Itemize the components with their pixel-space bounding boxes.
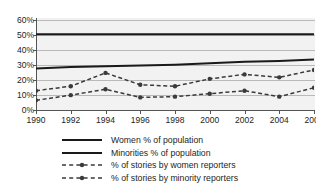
legend-key-solid [60, 134, 104, 146]
y-axis-tick [33, 95, 36, 96]
x-axis-tick [175, 110, 176, 114]
data-point-marker [242, 89, 246, 93]
data-point-marker [138, 95, 142, 99]
x-axis-tick [279, 110, 280, 114]
x-axis-tick [71, 110, 72, 114]
x-axis-tick-label: 2004 [270, 116, 289, 125]
data-point-marker [173, 94, 177, 98]
x-axis-tick-label: 2006 [305, 116, 316, 125]
x-axis-tick-label: 2002 [235, 116, 254, 125]
x-axis-tick [314, 110, 315, 114]
x-axis-tick [245, 110, 246, 114]
legend-item: % of stories by women reporters [60, 159, 290, 172]
data-point-marker [69, 84, 73, 88]
data-point-marker [36, 98, 38, 102]
data-point-marker [36, 89, 38, 93]
legend-label: % of stories by minority reporters [104, 172, 238, 184]
legend-label: Minorities % of population [104, 147, 210, 159]
legend-label: % of stories by women reporters [104, 159, 236, 171]
data-point-marker [69, 93, 73, 97]
x-axis-tick [106, 110, 107, 114]
y-axis-tick [33, 65, 36, 66]
x-axis-tick-label: 2000 [200, 116, 219, 125]
x-axis-tick-label: 1990 [27, 116, 46, 125]
data-point-marker [103, 71, 107, 75]
y-axis-tick [33, 110, 36, 111]
data-point-marker [277, 75, 281, 79]
chart-legend: Women % of populationMinorities % of pop… [60, 134, 290, 184]
legend-label: Women % of population [104, 134, 203, 146]
series-layer [36, 18, 314, 110]
data-point-marker [312, 86, 314, 90]
y-axis-tick [33, 50, 36, 51]
y-axis: 0%10%20%30%40%50%60% [0, 18, 34, 110]
y-axis-tick-label: 20% [17, 76, 34, 85]
legend-key-dashed [60, 159, 104, 171]
legend-key-solid [60, 147, 104, 159]
x-axis-tick-label: 1998 [166, 116, 185, 125]
series-line [36, 60, 314, 69]
x-axis-tick-label: 1994 [96, 116, 115, 125]
y-axis-tick [33, 35, 36, 36]
data-point-marker [277, 94, 281, 98]
chart-figure: 0%10%20%30%40%50%60% 1990199219941996199… [0, 0, 316, 188]
y-axis-tick-label: 50% [17, 31, 34, 40]
y-axis-tick-label: 30% [17, 61, 34, 70]
legend-marker [80, 176, 84, 180]
legend-key-dashed [60, 172, 104, 184]
x-axis-tick-label: 1996 [131, 116, 150, 125]
x-axis-tick [210, 110, 211, 114]
data-point-marker [312, 68, 314, 72]
legend-marker [80, 163, 84, 167]
data-point-marker [173, 84, 177, 88]
y-axis-tick [33, 20, 36, 21]
y-axis-tick-label: 40% [17, 46, 34, 55]
x-axis-tick [140, 110, 141, 114]
y-axis-tick [33, 80, 36, 81]
data-point-marker [103, 87, 107, 91]
x-axis-tick [36, 110, 37, 114]
legend-item: % of stories by minority reporters [60, 172, 290, 185]
data-point-marker [138, 83, 142, 87]
data-point-marker [242, 72, 246, 76]
legend-item: Minorities % of population [60, 147, 290, 160]
legend-item: Women % of population [60, 134, 290, 147]
data-point-marker [208, 77, 212, 81]
data-point-marker [208, 91, 212, 95]
y-axis-tick-label: 60% [17, 16, 34, 25]
x-axis-tick-label: 1992 [61, 116, 80, 125]
y-axis-tick-label: 10% [17, 91, 34, 100]
x-axis: 199019921994199619982000200220042006 [36, 110, 314, 134]
